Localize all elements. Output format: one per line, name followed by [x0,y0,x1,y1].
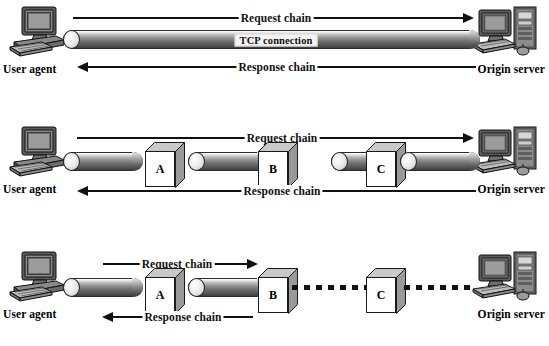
cylinder-left-cap [400,152,417,171]
workstation-icon [6,6,68,58]
proxy-label-a: A [145,277,175,313]
cylinder-right-cap [132,278,143,297]
tcp-hop-cylinder [188,152,268,171]
tcp-connection-label: TCP connection [235,34,318,47]
tcp-hop-cylinder [400,152,480,171]
cylinder-right-cap [132,152,143,171]
request-arrow-head [247,259,258,269]
cylinder-left-cap [331,152,348,171]
user-agent-label: User agent [3,308,57,320]
response-arrow-head [77,186,88,196]
origin-server-label: Origin server [478,308,545,320]
proxy-label-c: C [366,277,396,313]
proxy-node-a: A [145,268,185,314]
workstation-icon [6,251,68,303]
proxy-node-a: A [145,142,185,188]
cylinder-left-cap [188,278,205,297]
request-arrow-head [463,13,474,23]
cylinder-left-cap [63,30,80,49]
server-icon [469,126,543,178]
tcp-hop-cylinder [188,278,268,297]
direct-connection-row: User agent Origin server Request chain T… [0,0,549,100]
response-chain-label: Response chain [142,311,223,323]
request-arrow-head [463,133,474,143]
tcp-hop-cylinder [63,278,143,297]
cylinder-left-cap [188,152,205,171]
server-icon [469,6,543,58]
response-arrow-head [102,312,113,322]
origin-server-label: Origin server [478,63,545,75]
partial-chain-row: User agent Origin server Request chain A… [0,243,549,346]
response-chain-label: Response chain [236,61,317,73]
proxy-chain-row: User agent Origin server Request chain A… [0,120,549,220]
request-chain-label: Request chain [239,12,314,24]
proxy-label-b: B [258,277,288,313]
origin-server-label: Origin server [478,183,545,195]
user-agent-label: User agent [3,183,57,195]
response-arrow-head [77,62,88,72]
diagram-canvas: User agent Origin server Request chain T… [0,0,549,346]
workstation-icon [6,126,68,178]
proxy-label-c: C [366,151,396,187]
proxy-node-c: C [366,268,406,314]
user-agent-label: User agent [3,63,57,75]
tcp-hop-cylinder [63,152,143,171]
cylinder-left-cap [63,278,80,297]
response-chain-label: Response chain [241,185,322,197]
tunnel-dotted-line [404,285,476,290]
proxy-node-b: B [258,142,298,188]
proxy-node-b: B [258,268,298,314]
tunnel-dotted-line [292,285,370,290]
proxy-label-a: A [145,151,175,187]
proxy-label-b: B [258,151,288,187]
server-icon [469,251,543,303]
cylinder-left-cap [63,152,80,171]
